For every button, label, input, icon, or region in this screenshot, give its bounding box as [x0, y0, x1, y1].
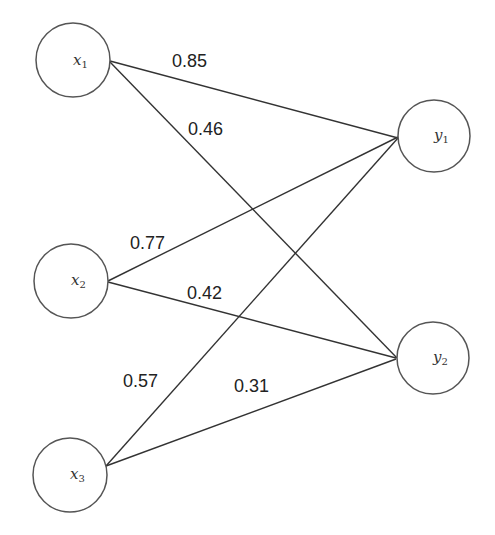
edge-x1-y2	[110, 62, 397, 358]
edge-x1-y1	[110, 61, 398, 138]
weight-x1-y1: 0.85	[172, 51, 207, 71]
edges	[106, 61, 398, 466]
edge-x2-y1	[108, 137, 398, 281]
edge-x3-y1	[106, 138, 398, 466]
weight-x2-y2: 0.42	[187, 283, 222, 303]
weight-x3-y1: 0.57	[123, 371, 158, 391]
network-diagram: 0.85 0.46 0.77 0.42 0.57 0.31 x1 x2 x3 y…	[0, 0, 495, 535]
weight-x2-y1: 0.77	[130, 233, 165, 253]
edge-x2-y2	[108, 282, 396, 358]
output-node-y2: y2	[397, 322, 469, 394]
output-node-y1: y1	[398, 100, 470, 172]
weight-x3-y2: 0.31	[234, 376, 269, 396]
input-node-x2: x2	[34, 244, 108, 318]
input-node-x1: x1	[36, 23, 110, 97]
input-node-x3: x3	[33, 438, 107, 512]
weight-x1-y2: 0.46	[188, 119, 223, 139]
weights: 0.85 0.46 0.77 0.42 0.57 0.31	[123, 51, 269, 396]
